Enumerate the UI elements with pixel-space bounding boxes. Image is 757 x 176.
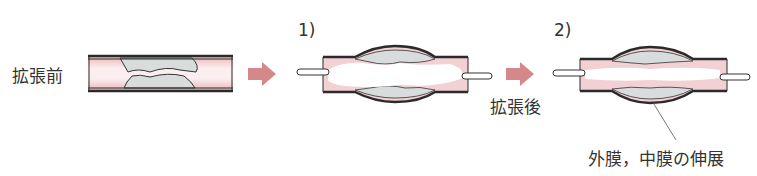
label-step-1: 1) — [298, 20, 315, 40]
label-before-dilation: 拡張前 — [12, 62, 63, 87]
label-step-2: 2) — [554, 20, 571, 40]
arrow-right-icon — [506, 62, 534, 86]
arrow-right-icon — [248, 62, 276, 86]
vessel-before — [88, 56, 233, 91]
vessel-after-dilation — [553, 47, 750, 140]
label-after-dilation: 拡張後 — [490, 93, 541, 118]
annotation-adventitia-media-stretch: 外膜，中膜の伸展 — [588, 145, 724, 170]
annotation-leader-line — [652, 101, 676, 140]
vessel-balloon-inflated — [297, 46, 492, 102]
